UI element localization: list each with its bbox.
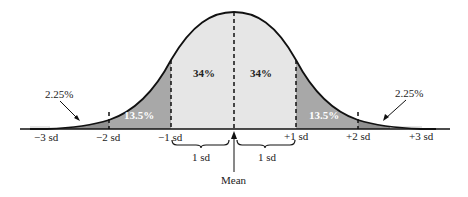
label-mean: Mean — [221, 174, 247, 186]
normal-distribution-diagram: 34% 34% 13.5% 13.5% 2.25% 2.25% −3 sd −2… — [0, 0, 468, 197]
label-2-25-right: 2.25% — [395, 87, 423, 99]
tick-plus-1sd: +1 sd — [284, 130, 309, 142]
label-13-5-right: 13.5% — [309, 109, 339, 121]
tick-plus-2sd: +2 sd — [346, 130, 371, 142]
label-13-5-left: 13.5% — [124, 109, 154, 121]
tick-minus-1sd: −1 sd — [158, 131, 183, 143]
mean-arrowhead — [231, 131, 237, 139]
tick-plus-3sd: +3 sd — [409, 130, 434, 142]
label-34-left: 34% — [193, 67, 215, 79]
arrow-left-tail — [60, 101, 78, 119]
label-brace-left: 1 sd — [192, 151, 211, 163]
label-34-right: 34% — [250, 67, 272, 79]
arrow-right-tail — [386, 100, 406, 118]
label-2-25-left: 2.25% — [45, 88, 73, 100]
label-brace-right: 1 sd — [258, 151, 277, 163]
tick-minus-3sd: −3 sd — [34, 131, 59, 143]
tick-minus-2sd: −2 sd — [96, 131, 121, 143]
